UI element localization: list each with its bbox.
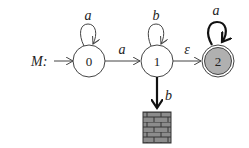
state-1: 1 bbox=[141, 45, 173, 77]
brick-wall-icon bbox=[143, 112, 171, 143]
fsm-diagram: M: 0 a a 1 b ε 2 a b bbox=[0, 0, 249, 148]
loop-1-edge bbox=[148, 24, 163, 46]
loop-2-label: a bbox=[213, 3, 220, 18]
state-2: 2 bbox=[202, 45, 234, 77]
loop-2-edge bbox=[208, 22, 226, 45]
loop-0-edge bbox=[81, 24, 96, 46]
edge-0-1-label: a bbox=[119, 42, 126, 57]
state-0-label: 0 bbox=[86, 54, 93, 69]
state-2-label: 2 bbox=[215, 54, 222, 69]
state-0: 0 bbox=[73, 45, 105, 77]
edge-1-dead-label: b bbox=[165, 88, 172, 103]
loop-1-label: b bbox=[153, 8, 160, 23]
state-1-label: 1 bbox=[154, 54, 161, 69]
machine-name: M: bbox=[30, 54, 47, 69]
edge-1-2-label: ε bbox=[184, 42, 190, 57]
loop-0-label: a bbox=[85, 8, 92, 23]
